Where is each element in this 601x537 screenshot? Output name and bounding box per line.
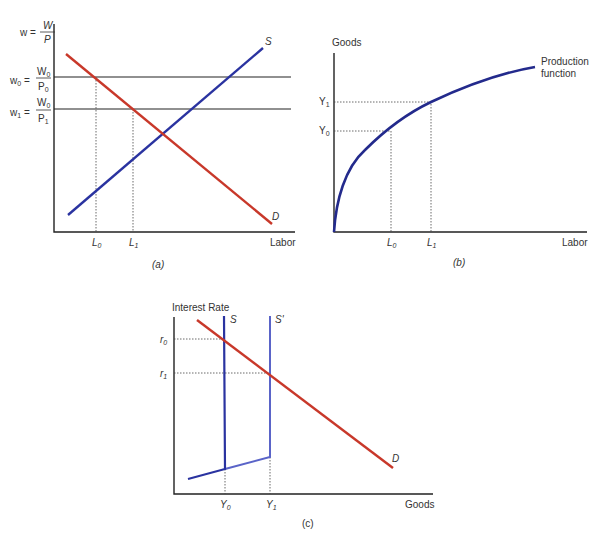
panel-c-demand-curve (197, 320, 393, 468)
panel-c-axes (174, 317, 433, 494)
panel-c-Y0-label: Y0 (220, 499, 231, 511)
panel-b-L0-label: L0 (387, 237, 397, 249)
panel-b-production-curve (334, 67, 535, 232)
panel-a-supply-curve (68, 48, 263, 215)
panel-a-L0-label: L0 (92, 237, 102, 249)
svg-text:w0 =: w0 = (9, 75, 30, 87)
panel-c-supply-shifted-curve (225, 316, 270, 469)
panel-a-yaxis-label-den: P (44, 34, 51, 45)
panel-c-r1-label: r1 (160, 368, 167, 380)
figure-canvas: w = W P w0 = W0 P0 w1 = W0 P1 S D L0 L1 … (0, 0, 601, 537)
panel-b-L1-label: L1 (427, 237, 437, 249)
svg-text:w1 =: w1 = (9, 107, 30, 119)
panel-c-supply-label: S (230, 314, 237, 325)
svg-text:W0: W0 (37, 97, 50, 109)
w0-den-sub: 0 (45, 86, 49, 93)
panel-c-xaxis-label: Goods (405, 499, 434, 510)
panel-a-demand-label: D (272, 211, 279, 222)
panel-a-w1-label: w1 = W0 P1 (9, 97, 51, 125)
svg-text:P0: P0 (38, 81, 49, 93)
panel-c: Interest Rate S S' D r0 r1 Y0 Y1 Goods (… (160, 302, 434, 529)
panel-b-yaxis-label: Goods (332, 37, 361, 48)
panel-a: w = W P w0 = W0 P0 w1 = W0 P1 S D L0 L1 … (9, 20, 296, 270)
panel-a-w0-label: w0 = W0 P0 (9, 66, 51, 93)
panel-b-Y0-label: Y0 (319, 125, 330, 137)
svg-text:P1: P1 (38, 113, 49, 125)
panel-c-caption: (c) (302, 518, 314, 529)
panel-a-demand-curve (66, 54, 272, 224)
panel-c-r0-label: r0 (160, 334, 167, 346)
panel-a-supply-label: S (265, 36, 272, 47)
panel-b-Y1-label: Y1 (319, 96, 330, 108)
svg-text:W0: W0 (37, 66, 50, 78)
panel-a-caption: (a) (152, 259, 164, 270)
panel-c-Y1-label: Y1 (266, 499, 277, 511)
panel-a-yaxis-label-num: W (43, 20, 54, 31)
panel-a-axes (54, 24, 295, 232)
panel-a-xaxis-label: Labor (270, 237, 296, 248)
panel-b-curve-label-line1: Production (541, 56, 589, 67)
panel-b-caption: (b) (453, 257, 465, 268)
w1-den-sub: 1 (45, 118, 49, 125)
panel-b-L1-Y1-guide (334, 102, 431, 232)
panel-b-xaxis-label: Labor (562, 237, 588, 248)
w0-num-sub: 0 (46, 71, 50, 78)
panel-b-L0-Y0-guide (334, 131, 391, 232)
panel-a-L1-label: L1 (129, 237, 139, 249)
panel-c-supply-shifted-label: S' (275, 314, 285, 325)
panel-b-curve-label-line2: function (541, 68, 576, 79)
panel-c-demand-label: D (392, 453, 399, 464)
panel-b: Goods Production function Y1 Y0 L0 L1 La… (319, 37, 589, 268)
panel-c-yaxis-label: Interest Rate (172, 302, 230, 313)
panel-c-supply-curve (188, 316, 225, 479)
w1-num-sub: 0 (46, 102, 50, 109)
panel-a-yaxis-label-lhs: w = (19, 27, 36, 38)
